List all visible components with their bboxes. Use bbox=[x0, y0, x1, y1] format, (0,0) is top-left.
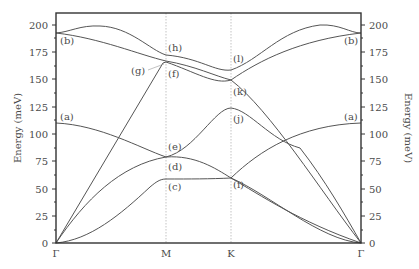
za-branch bbox=[56, 157, 361, 243]
phonon-dispersion-chart: 0 25 50 75 100 125 150 175 200 0 25 50 7… bbox=[0, 0, 419, 269]
label-c: (c) bbox=[168, 181, 182, 192]
label-e: (e) bbox=[168, 141, 182, 152]
to-branch bbox=[56, 33, 361, 80]
right-y-axis: 0 25 50 75 100 125 150 175 200 bbox=[361, 20, 388, 249]
la-branch bbox=[56, 62, 166, 243]
label-k: (k) bbox=[233, 86, 247, 97]
x-tick-k: K bbox=[227, 248, 235, 259]
label-a-left: (a) bbox=[60, 111, 74, 122]
lo-branch bbox=[56, 25, 361, 70]
zo-branch-right bbox=[231, 123, 361, 178]
left-y-axis-title: Energy (meV) bbox=[12, 93, 23, 163]
left-tick-200: 200 bbox=[29, 20, 48, 31]
label-l: (l) bbox=[233, 53, 244, 64]
right-tick-50: 50 bbox=[369, 184, 382, 195]
left-tick-0: 0 bbox=[42, 238, 48, 249]
right-tick-175: 175 bbox=[369, 47, 388, 58]
left-tick-100: 100 bbox=[29, 129, 48, 140]
left-tick-50: 50 bbox=[35, 184, 48, 195]
left-tick-175: 175 bbox=[29, 47, 48, 58]
label-f: (f) bbox=[168, 68, 180, 79]
right-tick-100: 100 bbox=[369, 129, 388, 140]
x-tick-gamma-right: Γ bbox=[358, 248, 365, 259]
label-b-left: (b) bbox=[60, 35, 74, 46]
right-y-axis-title: Energy (meV) bbox=[403, 93, 414, 163]
label-j: (j) bbox=[233, 113, 244, 124]
ta-branch bbox=[56, 178, 361, 243]
plot-frame bbox=[56, 13, 361, 243]
left-tick-25: 25 bbox=[35, 211, 48, 222]
j-branch bbox=[300, 148, 361, 243]
right-tick-0: 0 bbox=[369, 238, 375, 249]
left-tick-75: 75 bbox=[35, 156, 48, 167]
label-g-leader bbox=[148, 64, 164, 70]
label-h: (h) bbox=[168, 42, 182, 53]
left-tick-150: 150 bbox=[29, 74, 48, 85]
right-tick-150: 150 bbox=[369, 74, 388, 85]
x-tick-gamma-left: Γ bbox=[53, 248, 60, 259]
x-tick-m: M bbox=[161, 248, 171, 259]
right-tick-200: 200 bbox=[369, 20, 388, 31]
label-i: (i) bbox=[233, 179, 244, 190]
label-b-right: (b) bbox=[344, 35, 358, 46]
label-a-right: (a) bbox=[344, 111, 358, 122]
right-tick-75: 75 bbox=[369, 156, 382, 167]
right-tick-125: 125 bbox=[369, 102, 388, 113]
dispersion-curves bbox=[56, 25, 361, 243]
right-tick-25: 25 bbox=[369, 211, 382, 222]
label-d: (d) bbox=[168, 161, 182, 172]
left-tick-125: 125 bbox=[29, 102, 48, 113]
label-g: (g) bbox=[131, 65, 145, 76]
branch-labels: (a) (a) (b) (b) (c) (d) (e) (f) (g) (h) … bbox=[60, 35, 358, 192]
left-y-axis: 0 25 50 75 100 125 150 175 200 bbox=[29, 20, 56, 249]
